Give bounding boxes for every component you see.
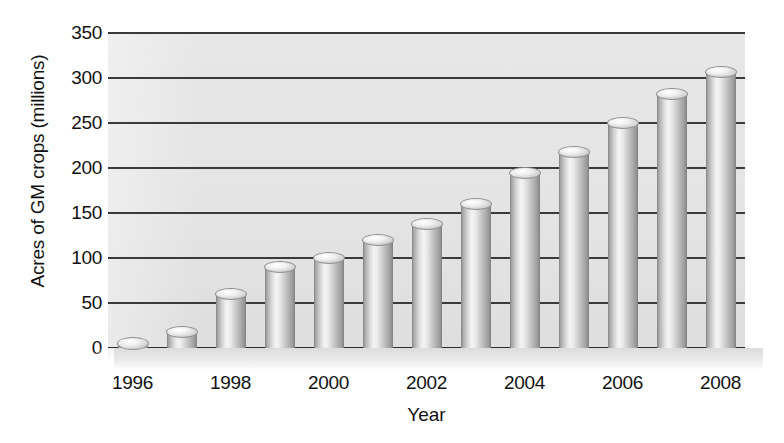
bar-2001 (363, 240, 393, 348)
bar-1999 (265, 267, 295, 348)
bar-top-ellipse (460, 198, 492, 210)
bar-top-ellipse (215, 288, 247, 300)
bar-1997 (167, 332, 197, 348)
bar-top-ellipse (558, 146, 590, 158)
y-axis-tick-labels: 050100150200250300350 (46, 0, 102, 443)
y-tick-label: 250 (46, 112, 102, 134)
bar-top-ellipse (656, 88, 688, 100)
bar-body (461, 204, 491, 348)
bar-body (608, 123, 638, 348)
bar-top-ellipse (411, 218, 443, 230)
x-tick-label: 2002 (406, 372, 447, 394)
bar-1996 (118, 344, 148, 348)
bar-body (314, 258, 344, 348)
bar-top-ellipse (166, 326, 198, 338)
y-tick-label: 50 (46, 292, 102, 314)
bar-body (510, 173, 540, 349)
bar-2003 (461, 204, 491, 348)
bar-body (706, 72, 736, 348)
bar-top-ellipse (117, 337, 149, 350)
bar-2000 (314, 258, 344, 348)
x-tick-label: 1998 (210, 372, 251, 394)
bar-top-ellipse (264, 261, 296, 273)
y-tick-label: 200 (46, 157, 102, 179)
bar-top-ellipse (607, 117, 639, 129)
y-tick-label: 150 (46, 202, 102, 224)
y-tick-label: 350 (46, 22, 102, 44)
bar-2006 (608, 123, 638, 348)
bar-2002 (412, 224, 442, 348)
bar-2005 (559, 152, 589, 348)
bar-2007 (657, 94, 687, 348)
x-tick-label: 1996 (112, 372, 153, 394)
bar-body (216, 294, 246, 348)
bar-top-ellipse (362, 234, 394, 246)
y-tick-label: 0 (46, 337, 102, 359)
y-tick-label: 300 (46, 67, 102, 89)
y-tick-label: 100 (46, 247, 102, 269)
bar-1998 (216, 294, 246, 348)
x-tick-label: 2008 (700, 372, 741, 394)
bar-chart: Acres of GM crops (millions) 05010015020… (0, 0, 784, 443)
bar-top-ellipse (313, 252, 345, 264)
x-tick-label: 2004 (504, 372, 545, 394)
bar-body (412, 224, 442, 348)
bar-top-ellipse (509, 167, 541, 179)
x-tick-label: 2000 (308, 372, 349, 394)
bar-2008 (706, 72, 736, 348)
bar-body (363, 240, 393, 348)
x-axis-title: Year (108, 404, 745, 426)
bar-body (559, 152, 589, 348)
x-tick-label: 2006 (602, 372, 643, 394)
bar-body (657, 94, 687, 348)
bar-2004 (510, 173, 540, 349)
bar-top-ellipse (705, 66, 737, 78)
x-axis-tick-labels: 1996199820002002200420062008 (108, 372, 745, 400)
bar-body (265, 267, 295, 348)
